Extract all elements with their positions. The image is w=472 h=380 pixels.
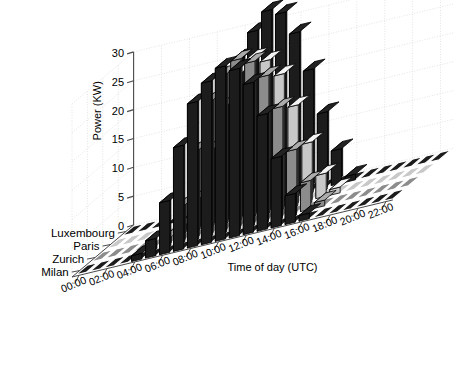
power-tick-label: 20	[112, 105, 124, 117]
bar-face-front	[187, 101, 197, 248]
bar-face-front	[215, 66, 225, 242]
power-tick	[127, 167, 134, 169]
city-axis-label-paris: Paris	[73, 240, 99, 252]
power-tick-label: 0	[118, 220, 124, 232]
bar-face-front	[243, 82, 253, 234]
bar-face-front	[271, 156, 281, 228]
power-tick	[127, 52, 134, 54]
chart-container: 051015202530Power (KW)MilanZurichParisLu…	[0, 0, 472, 380]
bar-face-front	[229, 68, 239, 238]
power-axis-label: Power (KW)	[91, 81, 103, 140]
power-tick-label: 10	[112, 162, 124, 174]
bar-face-front	[160, 200, 170, 254]
power-tick	[127, 110, 134, 112]
power-tick	[127, 196, 134, 198]
city-axis-label-zurich: Zurich	[52, 253, 84, 265]
gridline-left-h	[72, 81, 134, 133]
time-axis-label: Time of day (UTC)	[227, 261, 317, 273]
bar-face-front	[173, 145, 183, 251]
power-tick-label: 30	[112, 47, 124, 59]
bar-face-front	[285, 193, 295, 224]
power-tick-label: 25	[112, 76, 124, 88]
bar-face-front	[146, 238, 156, 258]
power-tick	[127, 138, 134, 140]
power-tick-label: 5	[118, 191, 124, 203]
bar-face-front	[201, 81, 211, 245]
bar-face-front	[257, 113, 267, 231]
city-axis-label-milan: Milan	[41, 266, 68, 278]
city-axis-label-luxembourg: Luxembourg	[51, 227, 115, 239]
power-tick-label: 15	[112, 133, 124, 145]
power-tick	[127, 81, 134, 83]
bar3d-chart: 051015202530Power (KW)MilanZurichParisLu…	[0, 0, 472, 380]
